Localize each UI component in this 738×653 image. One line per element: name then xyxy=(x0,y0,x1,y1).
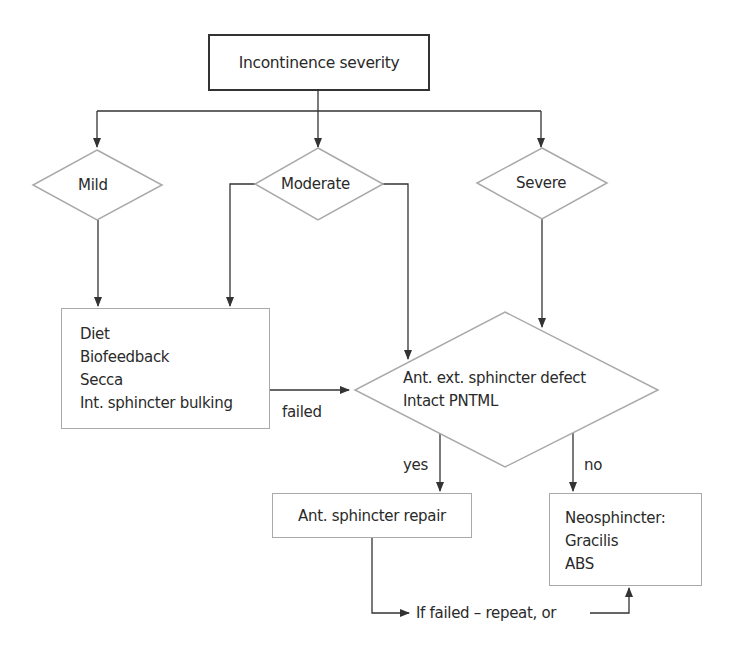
treatment-item: Diet xyxy=(80,323,233,346)
severe-label: Severe xyxy=(516,173,566,193)
flowchart: Incontinence severity Mild Moderate Seve… xyxy=(0,0,738,653)
repair-box: Ant. sphincter repair xyxy=(272,493,472,538)
failed-label: failed xyxy=(282,402,322,422)
yes-label: yes xyxy=(403,455,428,475)
arrow-moderate-to-conservative xyxy=(230,184,255,306)
treatment-item: Secca xyxy=(80,369,233,392)
decision-line: Ant. ext. sphincter defect xyxy=(403,367,586,390)
conservative-treatment-box: Diet Biofeedback Secca Int. sphincter bu… xyxy=(61,308,270,429)
treatment-item: Int. sphincter bulking xyxy=(80,392,233,415)
neosphincter-line: Neosphincter: xyxy=(565,507,666,530)
arrow-repair-to-iffailed xyxy=(372,538,409,613)
arrow-moderate-to-decision xyxy=(383,184,408,359)
decision-line: Intact PNTML xyxy=(403,390,586,413)
no-label: no xyxy=(584,455,602,475)
neosphincter-line: ABS xyxy=(565,553,666,576)
moderate-label: Moderate xyxy=(281,174,350,194)
neosphincter-list: Neosphincter: Gracilis ABS xyxy=(565,507,666,576)
neosphincter-line: Gracilis xyxy=(565,530,666,553)
neosphincter-box: Neosphincter: Gracilis ABS xyxy=(549,493,702,586)
conservative-treatment-list: Diet Biofeedback Secca Int. sphincter bu… xyxy=(80,323,233,415)
mild-label: Mild xyxy=(78,175,108,195)
repair-label: Ant. sphincter repair xyxy=(298,506,446,526)
decision-label: Ant. ext. sphincter defect Intact PNTML xyxy=(403,367,586,413)
arrow-iffailed-to-neosphincter xyxy=(590,588,629,613)
treatment-item: Biofeedback xyxy=(80,346,233,369)
root-box: Incontinence severity xyxy=(208,34,430,91)
if-failed-label: If failed – repeat, or xyxy=(416,603,556,623)
root-label: Incontinence severity xyxy=(239,53,400,73)
